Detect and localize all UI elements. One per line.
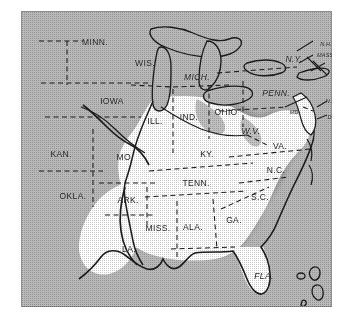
state-label-la: LA. [122,244,136,254]
state-label-tenn: TENN. [182,178,209,188]
state-label-sc: S.C. [251,192,269,202]
state-label-kan: KAN. [50,149,71,159]
state-label-va: VA. [273,141,287,151]
state-label-del: DEL. [328,114,332,120]
state-label-wva: W.V. [242,126,261,136]
state-label-penn: PENN. [262,88,290,98]
state-label-mo: MO. [116,152,133,162]
map-canvas: MINN.WIS.MICH.IOWAILL.IND.OHIOPENN.N.Y.N… [21,11,332,307]
state-label-md: MD. [290,109,301,115]
state-label-mich: MICH. [184,72,210,82]
map-figure: MINN.WIS.MICH.IOWAILL.IND.OHIOPENN.N.Y.N… [0,0,344,320]
state-label-ohio: OHIO [214,107,237,117]
state-label-okla: OKLA. [60,191,87,201]
state-label-wis: WIS. [135,58,155,68]
state-label-fla: FLA. [254,271,273,281]
state-label-ill: ILL. [147,116,163,126]
state-label-nj: N.J. [326,98,332,104]
state-label-ind: IND. [180,112,198,122]
state-label-layer: MINN.WIS.MICH.IOWAILL.IND.OHIOPENN.N.Y.N… [21,11,332,307]
state-label-miss: MISS. [146,223,171,233]
state-label-ark: ARK. [117,195,138,205]
state-label-ga: GA. [226,215,242,225]
state-label-nc: N.C. [267,165,285,175]
state-label-nh: N.H. [320,41,332,47]
state-label-iowa: IOWA [100,96,124,106]
state-label-ny: N.Y. [285,54,302,64]
state-label-minn: MINN. [82,37,108,47]
state-label-ala: ALA. [183,222,203,232]
state-label-mass: MASS. [317,52,332,58]
state-label-ky: KY. [200,149,214,159]
